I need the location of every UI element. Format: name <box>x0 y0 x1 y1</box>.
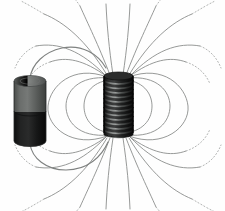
figure-root: Magnetic field of a current-carrying sol… <box>0 0 225 211</box>
solenoid-coil <box>104 72 133 138</box>
solenoid-top-cap <box>104 72 133 80</box>
battery <box>14 76 46 147</box>
battery-top-cap <box>14 76 46 87</box>
solenoid-field-diagram <box>0 0 225 211</box>
